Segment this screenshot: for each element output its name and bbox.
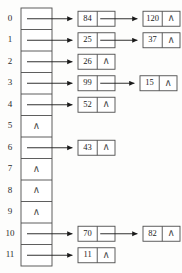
slot-index-label: 8	[8, 185, 13, 195]
node-value: 43	[83, 142, 92, 152]
index-labels: 01234567891011	[6, 13, 16, 260]
node-value: 120	[146, 13, 159, 23]
slot-index-label: 0	[8, 13, 13, 23]
hash-table-diagram: ∧∧∧∧ 01234567891011 84120∧2537∧26∧9915∧5…	[0, 0, 182, 273]
node-value: 52	[83, 99, 92, 109]
slot-null-marker: ∧	[33, 206, 40, 217]
slot-index-label: 4	[8, 99, 13, 109]
node-null-marker: ∧	[167, 227, 174, 238]
node-value: 37	[148, 34, 157, 44]
node-value: 26	[83, 56, 92, 66]
slot-index-label: 11	[6, 249, 15, 259]
diagram-canvas: ∧∧∧∧ 01234567891011 84120∧2537∧26∧9915∧5…	[0, 0, 182, 273]
slot-index-label: 7	[8, 163, 13, 173]
slot-index-label: 5	[8, 120, 13, 130]
slot-index-label: 1	[8, 34, 13, 44]
node-value: 70	[83, 228, 92, 238]
node-value: 82	[148, 228, 157, 238]
node-null-marker: ∧	[102, 55, 109, 66]
node-value: 99	[83, 77, 92, 87]
node-null-marker: ∧	[102, 98, 109, 109]
slot-index-label: 6	[8, 142, 13, 152]
node-null-marker: ∧	[102, 249, 109, 260]
slot-index-label: 3	[8, 77, 13, 87]
slot-null-marker: ∧	[33, 120, 40, 131]
hash-table-column: ∧∧∧∧	[21, 8, 52, 266]
node-null-marker: ∧	[102, 141, 109, 152]
slot-null-marker: ∧	[33, 184, 40, 195]
node-value: 84	[83, 13, 92, 23]
node-null-marker: ∧	[164, 77, 171, 88]
slot-index-label: 2	[8, 56, 13, 66]
node-value: 11	[84, 249, 92, 259]
slot-null-marker: ∧	[33, 163, 40, 174]
slot-index-label: 10	[6, 228, 16, 238]
node-null-marker: ∧	[167, 34, 174, 45]
node-null-marker: ∧	[167, 12, 174, 23]
node-value: 15	[145, 77, 154, 87]
slot-index-label: 9	[8, 206, 13, 216]
node-value: 25	[83, 34, 92, 44]
